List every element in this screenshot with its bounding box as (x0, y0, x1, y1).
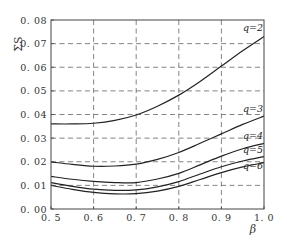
y-tick-label: 0. 05 (20, 85, 47, 96)
x-tick-label: 0. 5 (41, 212, 61, 223)
series-label-q3: q=3 (243, 103, 263, 114)
x-tick-label: 0. 7 (126, 212, 146, 223)
series-label-q4: q=4 (243, 130, 263, 141)
x-tick-label: 0. 8 (169, 212, 189, 223)
x-axis-title: β (249, 223, 256, 236)
y-tick-label: 0. 08 (20, 15, 47, 26)
y-tick-label: 0. 01 (20, 180, 47, 191)
line-chart: 0. 000. 010. 020. 030. 040. 050. 060. 07… (0, 0, 287, 245)
series-curves (51, 37, 264, 194)
x-tick-label: 0. 9 (211, 212, 231, 223)
y-tick-label: 0. 06 (20, 62, 47, 73)
series-label-q5: q=5 (243, 144, 263, 155)
series-label-q6: q=6 (243, 160, 263, 171)
series-line-q2 (51, 37, 264, 124)
y-axis-title: ΣS (12, 36, 25, 51)
series-label-q2: q=2 (243, 22, 263, 33)
x-tick-labels: 0. 50. 60. 70. 80. 91. 0 (41, 212, 274, 223)
x-tick-label: 1. 0 (254, 212, 274, 223)
y-tick-label: 0. 04 (20, 109, 47, 120)
x-tick-label: 0. 6 (84, 212, 104, 223)
y-tick-label: 0. 02 (20, 156, 47, 167)
y-tick-label: 0. 03 (20, 133, 47, 144)
series-line-q6 (51, 163, 264, 194)
